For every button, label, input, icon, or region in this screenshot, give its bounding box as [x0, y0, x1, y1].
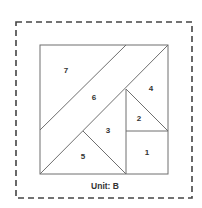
tangram-diagram: 1234567 Unit: B: [0, 0, 202, 208]
piece-label-7: 7: [64, 66, 69, 75]
piece-label-4: 4: [149, 84, 154, 93]
piece-label-2: 2: [137, 114, 142, 123]
unit-label: Unit: B: [91, 181, 119, 191]
background: [0, 0, 202, 208]
piece-label-5: 5: [81, 152, 86, 161]
piece-label-3: 3: [106, 126, 111, 135]
piece-label-1: 1: [145, 148, 150, 157]
piece-label-6: 6: [92, 93, 97, 102]
